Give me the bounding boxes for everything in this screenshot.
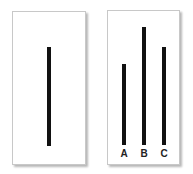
reference-line: [47, 47, 51, 146]
label-c: C: [157, 148, 171, 159]
line-a: [122, 64, 126, 145]
label-b: B: [137, 148, 151, 159]
line-c: [162, 47, 166, 145]
line-b: [142, 27, 146, 145]
label-a: A: [117, 148, 131, 159]
